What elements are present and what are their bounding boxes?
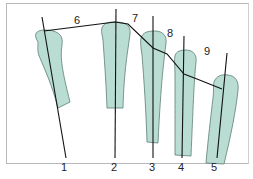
- bone-5: [206, 75, 238, 164]
- bone-1: [36, 30, 70, 108]
- axis-label-2: 2: [111, 161, 117, 173]
- axis-label-4: 4: [178, 161, 184, 173]
- axis-label-1: 1: [61, 161, 67, 173]
- hand-bones-diagram: 1 2 3 4 5 6 7 8 9: [0, 0, 253, 179]
- segment-label-8: 8: [167, 27, 173, 39]
- segment-label-9: 9: [204, 45, 210, 57]
- axis-label-5: 5: [211, 161, 217, 173]
- segment-label-6: 6: [74, 14, 80, 26]
- axis-label-3: 3: [149, 161, 155, 173]
- segment-label-7: 7: [132, 12, 138, 24]
